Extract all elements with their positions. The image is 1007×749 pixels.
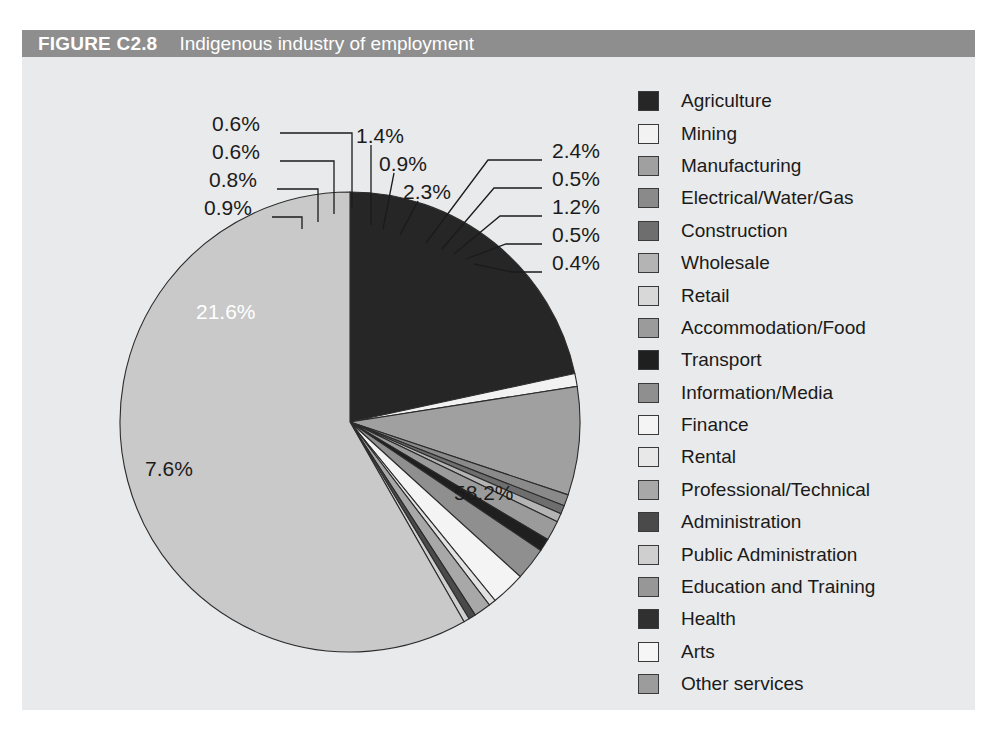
callout-label-0-8: 0.8% — [209, 168, 257, 192]
legend-swatch-icon — [638, 447, 659, 467]
legend-item-label: Public Administration — [681, 544, 857, 566]
legend-item-agriculture[interactable]: Agriculture — [638, 85, 938, 117]
figure-panel: FIGURE C2.8 Indigenous industry of emplo… — [22, 30, 975, 710]
legend-item-label: Wholesale — [681, 252, 770, 274]
callout-label-0-4: 0.4% — [552, 251, 600, 275]
legend-swatch-icon — [638, 124, 659, 144]
legend-item-rental[interactable]: Rental — [638, 441, 938, 473]
figure-number: FIGURE C2.8 — [38, 33, 157, 55]
legend-swatch-icon — [638, 286, 659, 306]
legend-swatch-icon — [638, 642, 659, 662]
legend-swatch-icon — [638, 383, 659, 403]
legend-item-accommodation-food[interactable]: Accommodation/Food — [638, 312, 938, 344]
legend-swatch-icon — [638, 415, 659, 435]
legend-swatch-icon — [638, 512, 659, 532]
legend-item-label: Finance — [681, 414, 749, 436]
legend-item-label: Manufacturing — [681, 155, 801, 177]
legend-item-administration[interactable]: Administration — [638, 506, 938, 538]
legend-swatch-icon — [638, 350, 659, 370]
slice-label-manufacturing: 7.6% — [145, 457, 193, 481]
slice-label-agriculture: 21.6% — [196, 300, 256, 324]
legend-item-education-and-training[interactable]: Education and Training — [638, 571, 938, 603]
legend-item-label: Electrical/Water/Gas — [681, 187, 853, 209]
callout-label-1-4: 1.4% — [356, 124, 404, 148]
legend-swatch-icon — [638, 318, 659, 338]
legend-swatch-icon — [638, 480, 659, 500]
figure-title-bar: FIGURE C2.8 Indigenous industry of emplo… — [22, 30, 975, 57]
callout-label-0-9l: 0.9% — [204, 196, 252, 220]
callout-label-0-6a: 0.6% — [212, 112, 260, 136]
chart-plot-area: 0.6% 0.6% 0.8% 0.9% 1.4% 0.9% 2.3% 2.4% … — [22, 57, 975, 710]
legend-item-label: Information/Media — [681, 382, 833, 404]
legend-item-public-administration[interactable]: Public Administration — [638, 538, 938, 570]
legend-swatch-icon — [638, 577, 659, 597]
legend-swatch-icon — [638, 609, 659, 629]
legend-item-mining[interactable]: Mining — [638, 117, 938, 149]
legend-item-label: Professional/Technical — [681, 479, 870, 501]
legend-item-transport[interactable]: Transport — [638, 344, 938, 376]
legend-item-other-services[interactable]: Other services — [638, 668, 938, 700]
legend-item-professional-technical[interactable]: Professional/Technical — [638, 474, 938, 506]
legend-item-health[interactable]: Health — [638, 603, 938, 635]
chart-legend: AgricultureMiningManufacturingElectrical… — [638, 85, 938, 700]
legend-item-label: Education and Training — [681, 576, 875, 598]
legend-swatch-icon — [638, 91, 659, 111]
callout-label-0-9m: 0.9% — [379, 152, 427, 176]
legend-swatch-icon — [638, 253, 659, 273]
legend-swatch-icon — [638, 545, 659, 565]
legend-swatch-icon — [638, 221, 659, 241]
legend-item-label: Accommodation/Food — [681, 317, 866, 339]
legend-item-manufacturing[interactable]: Manufacturing — [638, 150, 938, 182]
pie-slice-group — [120, 192, 580, 652]
legend-item-information-media[interactable]: Information/Media — [638, 377, 938, 409]
legend-item-label: Construction — [681, 220, 788, 242]
legend-item-label: Retail — [681, 285, 730, 307]
figure-caption: Indigenous industry of employment — [179, 33, 474, 55]
legend-item-label: Health — [681, 608, 736, 630]
legend-item-arts[interactable]: Arts — [638, 636, 938, 668]
legend-item-label: Arts — [681, 641, 715, 663]
legend-item-finance[interactable]: Finance — [638, 409, 938, 441]
legend-item-label: Other services — [681, 673, 803, 695]
legend-item-construction[interactable]: Construction — [638, 215, 938, 247]
callout-label-1-2: 1.2% — [552, 195, 600, 219]
legend-item-label: Transport — [681, 349, 762, 371]
legend-swatch-icon — [638, 188, 659, 208]
legend-swatch-icon — [638, 674, 659, 694]
callout-label-2-4: 2.4% — [552, 139, 600, 163]
slice-label-retail: 58.2% — [454, 481, 514, 505]
legend-item-label: Mining — [681, 123, 737, 145]
callout-label-2-3: 2.3% — [403, 180, 451, 204]
legend-item-label: Rental — [681, 446, 736, 468]
legend-item-label: Agriculture — [681, 90, 772, 112]
callout-label-0-5a: 0.5% — [552, 167, 600, 191]
legend-item-retail[interactable]: Retail — [638, 279, 938, 311]
callout-label-0-5b: 0.5% — [552, 223, 600, 247]
legend-item-electrical-water-gas[interactable]: Electrical/Water/Gas — [638, 182, 938, 214]
callout-label-0-6b: 0.6% — [212, 140, 260, 164]
legend-swatch-icon — [638, 156, 659, 176]
legend-item-wholesale[interactable]: Wholesale — [638, 247, 938, 279]
legend-item-label: Administration — [681, 511, 801, 533]
